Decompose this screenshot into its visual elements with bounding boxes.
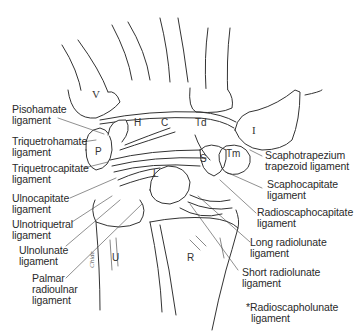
label-scaphotrapezium-trapezoid-ligament: Scaphotrapezium trapezoid ligament [265,150,349,172]
label-line: ligament [242,278,320,289]
label-line: ligament [250,248,327,259]
label-ulnotriquetral-ligament: Ulnotriquetral ligament [12,219,73,241]
label-line: ligament [32,295,78,306]
bone-label-ulna: U [112,252,119,263]
label-pisohamate-ligament: Pisohamate ligament [12,104,66,126]
bone-label-hamate: H [134,117,141,128]
label-line: trapezoid ligament [265,161,349,172]
label-triquetrohamate-ligament: Triquetrohamate ligament [12,136,87,158]
bone-label-scaphoid: S [200,153,207,164]
label-ulnocapitate-ligament: Ulnocapitate ligament [12,193,69,215]
label-ulnolunate-ligament: Ulnolunate ligament [19,245,68,267]
label-line: ligament [19,256,68,267]
label-line: ligament [12,115,66,126]
label-short-radiolunate-ligament: Short radiolunate ligament [242,267,320,289]
label-line: ligament [257,218,353,229]
label-line: ligament [246,313,338,324]
bone-label-lunate: L [153,168,159,179]
bone-label-pisiform: P [95,146,102,157]
bone-label-radius: R [187,252,194,263]
label-palmar-radioulnar-ligament: Palmar radioulnar ligament [32,273,78,306]
label-line: ligament [267,190,338,201]
artist-signature: Chide [88,251,96,268]
label-line: ligament [12,174,89,185]
label-triquetrocapitate-ligament: Triquetrocapitate ligament [12,163,89,185]
label-line: ligament [12,204,69,215]
bone-label-trapezoid: Td [195,117,207,128]
bone-label-trapezium: Tm [226,148,240,159]
bone-label-capitate: C [161,117,168,128]
label-scaphocapitate-ligament: Scaphocapitate ligament [267,179,338,201]
label-line: ligament [12,230,73,241]
bone-label-first-metacarpal: I [252,124,256,136]
label-radioscaphocapitate-ligament: Radioscaphocapitate ligament [257,207,353,229]
bone-label-fifth-metacarpal: V [92,88,100,100]
label-radioscapholunate-ligament: *Radioscapholunate ligament [246,302,338,324]
label-line: ligament [12,147,87,158]
label-long-radiolunate-ligament: Long radiolunate ligament [250,237,327,259]
